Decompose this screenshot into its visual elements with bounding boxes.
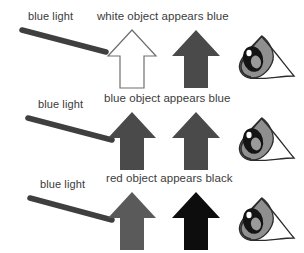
row-caption: red object appears black: [106, 172, 233, 184]
diagram-canvas: blue light white object appears blue blu…: [0, 0, 304, 253]
diagram-row-blue-object: blue light blue object appears blue: [0, 80, 304, 164]
perceived-black-arrow: [168, 188, 224, 253]
diagram-row-white-object: blue light white object appears blue: [0, 0, 304, 84]
eye-icon: [232, 192, 298, 248]
diagram-row-red-object: blue light red object appears black: [0, 160, 304, 244]
eye-icon: [232, 30, 298, 86]
row-caption: white object appears blue: [97, 10, 229, 22]
row-caption: blue object appears blue: [104, 92, 231, 104]
red-object-arrow: [104, 188, 160, 253]
